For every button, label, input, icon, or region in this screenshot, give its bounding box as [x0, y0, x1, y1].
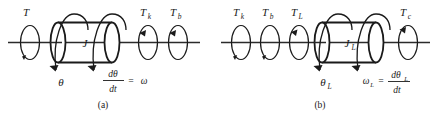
- equation-omega-a: dθ dt = ω: [103, 69, 148, 94]
- equation-b-numerator: dθ: [391, 70, 401, 80]
- label-torque-T: T: [23, 6, 30, 18]
- panel-a: T T k T b J θ dθ dt = ω (a): [8, 6, 200, 111]
- equation-b-omega: ω: [363, 76, 370, 86]
- caption-panel-a: (a): [98, 100, 109, 111]
- equation-omega-b: ω L = dθ L dt: [363, 70, 410, 95]
- equation-b-equals: =: [378, 76, 384, 86]
- label-torque-Tc-b-sub: c: [408, 12, 412, 21]
- label-torque-TL-b-sub: L: [297, 12, 302, 21]
- equation-a-equals: =: [128, 76, 134, 86]
- label-torque-Tk-a-sub: k: [148, 12, 152, 21]
- label-torque-Tb-b-sub: b: [270, 12, 274, 21]
- figure-canvas: T T k T b J θ dθ dt = ω (a): [0, 0, 437, 117]
- label-torque-TL-b: T: [291, 6, 298, 18]
- rotational-system-figure: T T k T b J θ dθ dt = ω (a): [0, 0, 437, 117]
- equation-b-denominator: dt: [393, 85, 401, 95]
- label-angle-theta-b-sub: L: [326, 82, 331, 91]
- label-inertia-J-b-sub: L: [350, 43, 355, 52]
- rotation-arrowhead-omega-b: [352, 65, 361, 72]
- label-torque-Tb-a: T: [170, 6, 177, 18]
- label-torque-Tb-a-sub: b: [178, 12, 182, 21]
- label-torque-Tb-b: T: [262, 6, 269, 18]
- label-torque-Tk-b-sub: k: [241, 12, 245, 21]
- equation-a-denominator: dt: [109, 84, 117, 94]
- rotation-arrowhead-theta-b: [314, 65, 323, 72]
- equation-b-omega-sub: L: [369, 81, 374, 88]
- label-torque-Tk-b: T: [233, 6, 240, 18]
- equation-b-numerator-sub: L: [403, 75, 408, 82]
- panel-b: T k T b T L T c J L θ L ω L = dθ L dt: [221, 6, 430, 111]
- label-angle-theta-b: θ: [320, 76, 326, 88]
- caption-panel-b: (b): [314, 100, 325, 111]
- rotation-arrowhead-omega-a: [88, 65, 97, 72]
- rotation-arrowhead-theta-a: [50, 65, 59, 72]
- label-angle-theta-a: θ: [58, 76, 64, 88]
- equation-a-result: ω: [141, 76, 148, 86]
- label-torque-Tc-b: T: [400, 6, 407, 18]
- label-torque-Tk-a: T: [140, 6, 147, 18]
- equation-a-numerator: dθ: [108, 69, 118, 79]
